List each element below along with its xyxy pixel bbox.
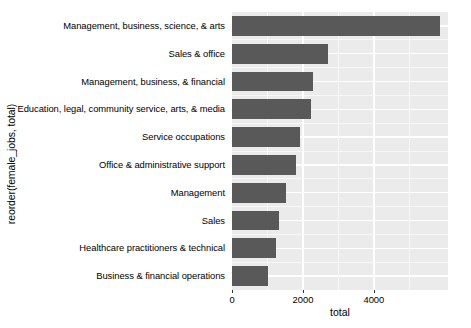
bar <box>232 238 276 258</box>
bar <box>232 211 279 231</box>
y-axis-tick-label: Healthcare practitioners & technical <box>79 242 225 254</box>
bar <box>232 155 296 175</box>
bar <box>232 16 440 36</box>
grid-line-horizontal-minor <box>232 262 448 263</box>
x-axis-tick-mark <box>303 290 304 293</box>
grid-line-horizontal-minor <box>232 178 448 179</box>
bar <box>232 127 300 147</box>
grid-line-horizontal-minor <box>232 67 448 68</box>
bar <box>232 183 286 203</box>
x-axis-tick-mark <box>374 290 375 293</box>
grid-line-vertical-minor <box>338 12 339 290</box>
bar <box>232 44 328 64</box>
y-axis-tick-label: Office & administrative support <box>99 159 225 171</box>
grid-line-horizontal-minor <box>232 234 448 235</box>
x-axis-tick-mark <box>232 290 233 293</box>
x-axis-tick-label: 4000 <box>363 294 384 305</box>
y-axis-title: reorder(female_jobs, total) <box>0 0 22 328</box>
y-axis-tick-label: Service occupations <box>142 131 225 143</box>
y-axis-tick-label: Business & financial operations <box>96 270 225 282</box>
grid-line-horizontal-minor <box>232 95 448 96</box>
x-axis-tick-label: 2000 <box>292 294 313 305</box>
bar <box>232 99 311 119</box>
grid-line-horizontal-minor <box>232 39 448 40</box>
bar-chart: reorder(female_jobs, total) Management, … <box>0 0 471 328</box>
x-axis-title: total <box>232 306 448 318</box>
grid-line-horizontal-minor <box>232 123 448 124</box>
x-axis-tick-label: 0 <box>229 294 234 305</box>
y-axis-tick-label: Sales <box>202 215 225 227</box>
plot-panel <box>232 12 448 290</box>
y-axis-tick-label: Management, business, & financial <box>81 76 225 88</box>
y-axis-tick-label: Sales & office <box>169 48 225 60</box>
y-axis-tick-labels: Management, business, science, & artsSal… <box>22 12 225 290</box>
grid-line-horizontal-minor <box>232 151 448 152</box>
grid-line-horizontal-minor <box>232 206 448 207</box>
y-axis-tick-label: Management <box>171 187 225 199</box>
grid-line-vertical <box>373 12 374 290</box>
bar <box>232 266 268 286</box>
y-axis-tick-label: Education, legal, community service, art… <box>18 103 226 115</box>
bar <box>232 72 313 92</box>
y-axis-tick-label: Management, business, science, & arts <box>63 20 225 32</box>
grid-line-vertical-minor <box>409 12 410 290</box>
